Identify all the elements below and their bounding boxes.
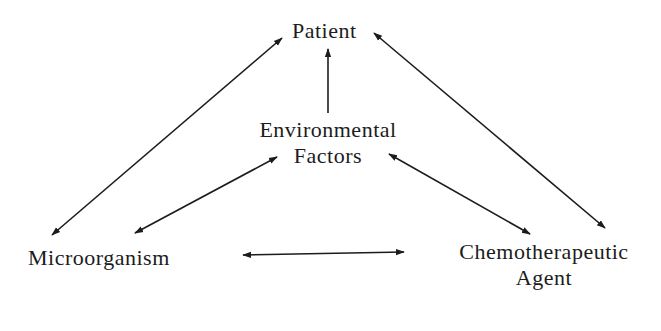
node-microorganism: Microorganism — [28, 245, 170, 271]
node-chemotherapeutic-agent-line1: Chemotherapeutic — [434, 239, 654, 265]
node-environmental-factors-line1: Environmental — [238, 117, 418, 143]
node-patient-label: Patient — [292, 18, 357, 43]
node-environmental-factors: Environmental Factors — [238, 117, 418, 169]
node-environmental-factors-line2: Factors — [238, 143, 418, 169]
host-agent-environment-diagram: Patient Environmental Factors Microorgan… — [0, 0, 661, 331]
arrow-microorganism-chemotherapeutic-agent — [243, 252, 404, 255]
node-microorganism-label: Microorganism — [28, 245, 170, 270]
node-chemotherapeutic-agent: Chemotherapeutic Agent — [434, 239, 654, 291]
node-patient: Patient — [292, 18, 357, 44]
node-chemotherapeutic-agent-line2: Agent — [434, 265, 654, 291]
